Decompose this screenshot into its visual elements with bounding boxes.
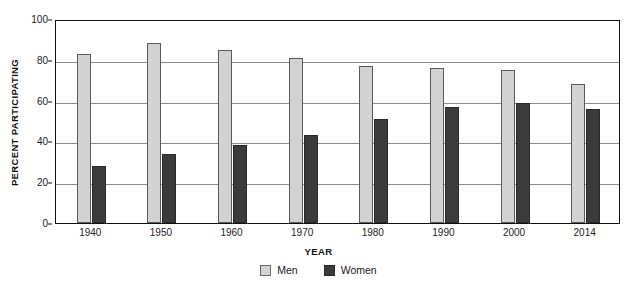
legend-swatch-women <box>324 265 335 276</box>
y-axis-title-text: PERCENT PARTICIPATING <box>10 58 21 185</box>
x-tick-label: 1990 <box>432 227 454 238</box>
y-axis-title: PERCENT PARTICIPATING <box>6 20 24 224</box>
bar-women-1940 <box>92 166 106 223</box>
x-tick-label: 1950 <box>150 227 172 238</box>
y-tick-label: 80 <box>37 56 48 66</box>
bar-men-2000 <box>501 70 515 223</box>
bar-men-1990 <box>430 68 444 223</box>
bar-group <box>359 21 388 223</box>
x-tick-label: 2000 <box>503 227 525 238</box>
bar-group <box>218 21 247 223</box>
bar-group <box>289 21 318 223</box>
plot-area <box>55 20 620 224</box>
bar-men-1950 <box>147 43 161 223</box>
bar-women-1960 <box>233 145 247 223</box>
y-tick-mark <box>48 101 52 102</box>
x-tick-label: 2014 <box>574 227 596 238</box>
bar-women-1950 <box>162 154 176 223</box>
x-tick-label: 1940 <box>79 227 101 238</box>
chart-legend: MenWomen <box>0 264 637 276</box>
x-axis-ticks: 19401950196019701980199020002014 <box>55 227 620 243</box>
bar-group <box>501 21 530 223</box>
bar-men-2014 <box>571 84 585 223</box>
bar-men-1980 <box>359 66 373 223</box>
y-tick-label: 40 <box>37 137 48 147</box>
legend-label: Women <box>341 264 377 276</box>
x-tick-label: 1970 <box>291 227 313 238</box>
bar-women-1980 <box>374 119 388 223</box>
y-tick-mark <box>48 224 52 225</box>
bars-layer <box>56 21 619 223</box>
legend-item-women[interactable]: Women <box>324 264 377 276</box>
bar-group <box>77 21 106 223</box>
bar-women-1990 <box>445 107 459 223</box>
y-tick-label: 20 <box>37 178 48 188</box>
y-tick-label: 100 <box>31 15 48 25</box>
legend-label: Men <box>277 264 297 276</box>
y-tick-mark <box>48 20 52 21</box>
bar-group <box>571 21 600 223</box>
y-tick-mark <box>48 142 52 143</box>
bar-women-1970 <box>304 135 318 223</box>
x-axis-title: YEAR <box>0 246 637 257</box>
y-tick-mark <box>48 183 52 184</box>
bar-chart: PERCENT PARTICIPATING 020406080100 19401… <box>0 0 637 291</box>
x-tick-label: 1960 <box>220 227 242 238</box>
legend-item-men[interactable]: Men <box>260 264 297 276</box>
legend-swatch-men <box>260 265 271 276</box>
y-tick-mark <box>48 60 52 61</box>
bar-group <box>430 21 459 223</box>
y-axis-ticks: 020406080100 <box>24 20 52 224</box>
bar-men-1970 <box>289 58 303 223</box>
bar-women-2014 <box>586 109 600 223</box>
bar-men-1940 <box>77 54 91 223</box>
bar-group <box>147 21 176 223</box>
bar-men-1960 <box>218 50 232 223</box>
x-tick-label: 1980 <box>362 227 384 238</box>
y-tick-label: 60 <box>37 97 48 107</box>
bar-women-2000 <box>516 103 530 223</box>
